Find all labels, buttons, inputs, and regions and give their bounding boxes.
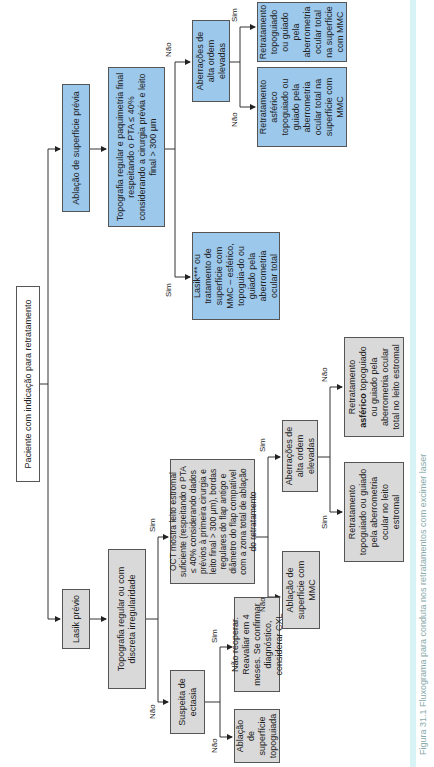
surface-ablation-mmc-node: Ablação de superfície com MMC xyxy=(282,551,320,629)
surface-ablation-node: Ablação de superfície prévia xyxy=(62,84,90,212)
oct-condition-node: OCT mostra leito estromal suficiente (re… xyxy=(170,459,255,584)
label-yes: Sim xyxy=(148,518,157,532)
label-no: Não xyxy=(148,704,157,719)
flowchart-canvas: Paciente com indicação para retratamento… xyxy=(0,0,434,767)
label-yes: Sim xyxy=(258,438,267,452)
figure-caption: Figura 31.1 Fluxograma para conduta nos … xyxy=(418,0,434,767)
stromal-aspheric-retreatment-node: Retratamento asférico topoguiado ou guia… xyxy=(344,337,404,437)
label-no: Não xyxy=(164,42,173,57)
label-no: Não xyxy=(258,597,267,612)
surface-aspheric-retreatment-node: Retratamento asférico topoguiado ou guia… xyxy=(257,67,347,147)
root-node: Paciente com indicação para retratamento xyxy=(16,286,40,482)
ectasia-suspicion-node: Suspeita de ectasia xyxy=(170,670,205,734)
topoguided-surface-ablation-node: Ablação de superfície topoguiada xyxy=(234,709,280,763)
aspheric-bold: asférico xyxy=(358,393,368,428)
surface-condition-node: Topografia regular e paquimetria final r… xyxy=(108,67,165,227)
label-no: Não xyxy=(320,367,329,382)
label-yes: Sim xyxy=(230,8,239,22)
caption-strip xyxy=(410,0,416,767)
surface-hoa-condition-node: Aberrações de alta ordem elevadas xyxy=(192,20,230,102)
label-no: Não xyxy=(230,112,239,127)
lasik-or-surface-mmc-node: Lasik*** ou tratamento de superfície com… xyxy=(192,232,280,320)
lasik-hoa-condition-node: Aberrações de alta ordem elevadas xyxy=(282,420,318,492)
surface-topoguided-retreatment-node: Retratamento topoguiado ou guiado pela a… xyxy=(257,2,347,62)
label-no: Não xyxy=(210,738,219,753)
label-yes: Sim xyxy=(164,283,173,297)
aspheric-prefix: Retratamento xyxy=(347,360,357,415)
lasik-previous-node: Lasik prévio xyxy=(62,589,90,649)
label-yes: Sim xyxy=(210,629,219,643)
lasik-topography-node: Topografia regular ou com discreta irreg… xyxy=(108,549,146,689)
no-reoperate-node: Não reoperar. Reavaliar em 4 meses. Se c… xyxy=(234,597,280,692)
label-yes: Sim xyxy=(320,515,329,529)
stromal-topoguided-retreatment-node: Retratamento topoguiado ou guiado pela a… xyxy=(344,462,404,562)
